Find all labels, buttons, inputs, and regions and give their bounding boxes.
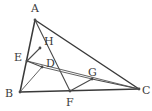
diagram-canvas: [0, 0, 152, 111]
segment-af: [35, 20, 70, 91]
vertex-label-c: C: [142, 85, 150, 96]
edges-layer: [20, 20, 139, 92]
vertex-label-f: F: [66, 97, 74, 108]
segment-ec: [27, 61, 139, 89]
vertex-point-b: [19, 91, 22, 94]
vertex-label-e: E: [14, 52, 22, 63]
vertex-point-c: [138, 88, 141, 91]
segment-ac: [35, 20, 139, 89]
vertices-layer: [19, 19, 141, 94]
vertex-label-g: G: [88, 67, 97, 78]
vertex-label-h: H: [44, 36, 54, 47]
vertex-point-e: [26, 60, 29, 63]
vertex-point-a: [34, 19, 37, 22]
segment-fg: [70, 79, 92, 91]
vertex-label-a: A: [31, 3, 39, 14]
vertex-label-b: B: [5, 88, 13, 99]
vertex-label-d: D: [46, 58, 55, 69]
vertex-point-d: [41, 66, 44, 69]
segment-bc: [20, 89, 139, 92]
vertex-point-h: [39, 47, 42, 50]
vertex-point-f: [69, 90, 72, 93]
geometry-figure: ABCDEFGH: [0, 0, 152, 111]
